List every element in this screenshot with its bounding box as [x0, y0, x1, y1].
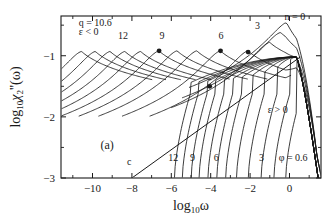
annotation-panel-label: (a) — [100, 138, 113, 152]
x-tick-label: −6 — [165, 182, 177, 194]
y-tick-label: −2 — [43, 111, 55, 123]
annotation-top-label-12: 12 — [118, 30, 128, 41]
data-point-marker-9 — [157, 48, 162, 53]
annotation-bottom-label-12: 12 — [168, 152, 178, 163]
annotation-top-label-9: 9 — [159, 30, 164, 41]
y-axis-title: log10χ2''(ω) — [8, 66, 25, 127]
annotation-top-label-3: 3 — [255, 20, 260, 31]
y-tick-label: −3 — [43, 172, 55, 184]
x-tick-label: −2 — [244, 182, 256, 194]
data-point-marker-3 — [246, 50, 251, 55]
annotation-bottom-label-3: 3 — [259, 152, 264, 163]
y-tick-label: −1 — [43, 50, 55, 62]
figure-panel-a: −10−8−6−4−20−1−2−3 q = 10.6ε < 0ε > 0(a)… — [0, 0, 335, 222]
x-tick-label: 0 — [287, 182, 293, 194]
annotation-bottom-label-6: 6 — [214, 152, 219, 163]
annotation-epsilon-positive: ε > 0 — [268, 104, 288, 115]
annotation-epsilon-negative: ε < 0 — [79, 26, 99, 37]
annotation-top-label-6: 6 — [219, 30, 224, 41]
annotation-n-zero-label: n = 0 — [285, 11, 306, 22]
annotation-bottom-label-9: 9 — [190, 152, 195, 163]
data-point-marker-low — [207, 84, 212, 89]
x-tick-label: −10 — [84, 182, 102, 194]
annotation-bottom-label-c: c — [127, 156, 132, 167]
annotation-phi-value: φ = 0.6 — [279, 152, 308, 163]
data-point-marker-6 — [218, 48, 223, 53]
x-tick-label: −4 — [205, 182, 217, 194]
susceptibility-spectra-chart: −10−8−6−4−20−1−2−3 q = 10.6ε < 0ε > 0(a)… — [0, 0, 335, 222]
x-tick-label: −8 — [126, 182, 138, 194]
